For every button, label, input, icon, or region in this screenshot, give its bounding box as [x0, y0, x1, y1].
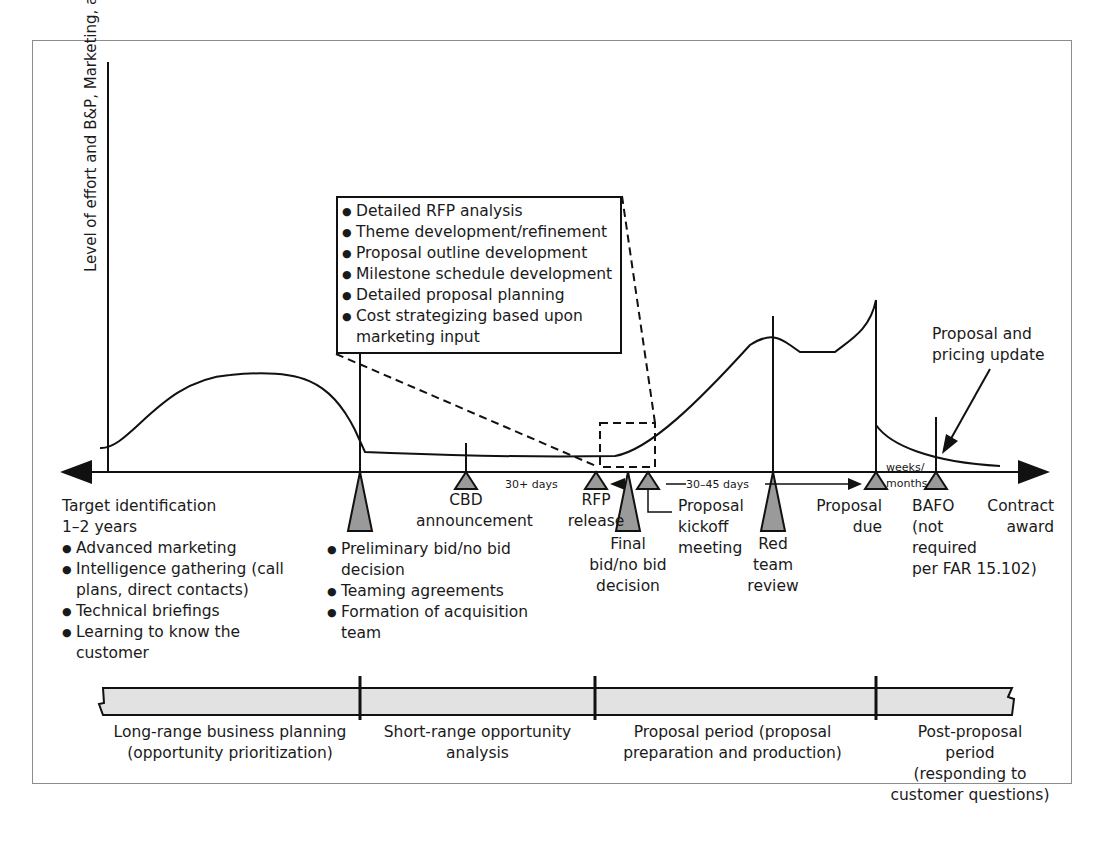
target-duration: 1–2 years	[62, 517, 322, 538]
rfp-marker-icon	[585, 472, 607, 489]
target-item: Technical briefings	[62, 601, 322, 622]
proposal-due-marker-icon	[865, 472, 887, 489]
callout-item: Detailed proposal planning	[342, 285, 616, 306]
callout-item: Theme development/refinement	[342, 222, 616, 243]
interval-30-plus: 30+ days	[505, 478, 558, 491]
period-post-proposal: Post-proposal period (responding to cust…	[880, 722, 1060, 806]
callout-leader-right	[622, 196, 655, 423]
period-line: Post-proposal	[880, 722, 1060, 743]
cbd-line2: announcement	[416, 511, 516, 532]
detail-zoom-box	[600, 423, 655, 467]
y-axis-label: Level of effort and B&P, Marketing, and …	[82, 0, 100, 272]
target-identification-label: Target identification 1–2 years Advanced…	[62, 496, 322, 664]
callout-item: Proposal outline development	[342, 243, 616, 264]
callout-item: Cost strategizing based upon marketing i…	[342, 306, 616, 348]
red-team-line3: review	[743, 576, 803, 597]
period-proposal: Proposal period (proposal preparation an…	[600, 722, 865, 764]
callout-item: Milestone schedule development	[342, 264, 616, 285]
final-bid-line2: bid/no bid	[588, 555, 668, 576]
kickoff-line1: Proposal	[678, 496, 744, 517]
proposal-due-label: Proposal due	[800, 496, 882, 538]
period-line: Short-range opportunity	[365, 722, 590, 743]
final-bid-line1: Final	[588, 534, 668, 555]
pricing-update-line1: Proposal and	[932, 324, 1045, 345]
preliminary-item: Preliminary bid/no bid decision	[327, 539, 531, 581]
period-line: Proposal period (proposal	[600, 722, 865, 743]
kickoff-leader	[648, 490, 672, 512]
red-team-line2: team	[743, 555, 803, 576]
axis-right-arrow-icon	[1018, 460, 1050, 484]
callout-item: Detailed RFP analysis	[342, 201, 616, 222]
interval-arrow-right-icon	[848, 478, 862, 490]
final-bid-label: Final bid/no bid decision	[588, 534, 668, 597]
preliminary-item: Teaming agreements	[327, 581, 547, 602]
rfp-label: RFP release	[566, 490, 626, 532]
update-arrow-head-icon	[942, 434, 958, 454]
red-team-line1: Red	[743, 534, 803, 555]
period-line: (opportunity prioritization)	[100, 743, 360, 764]
period-line: preparation and production)	[600, 743, 865, 764]
interval-30-45: 30–45 days	[686, 478, 749, 491]
interval-weeks: weeks/	[886, 461, 924, 474]
preliminary-marker-icon	[348, 472, 372, 531]
kickoff-line2: kickoff	[678, 517, 744, 538]
proposal-due-line2: due	[800, 517, 882, 538]
red-team-marker-icon	[761, 472, 785, 531]
cbd-label: CBD announcement	[416, 490, 516, 532]
kickoff-marker-icon	[637, 472, 659, 489]
rfp-line1: RFP	[566, 490, 626, 511]
interval-months: months	[886, 477, 927, 490]
contract-award-line1: Contract	[978, 496, 1054, 517]
kickoff-label: Proposal kickoff meeting	[678, 496, 744, 559]
target-item: Advanced marketing	[62, 538, 322, 559]
final-bid-line3: decision	[588, 576, 668, 597]
bafo-line3: required	[912, 538, 1037, 559]
red-team-label: Red team review	[743, 534, 803, 597]
period-line: customer questions)	[880, 785, 1060, 806]
pricing-update-line2: pricing update	[932, 345, 1045, 366]
target-item: Intelligence gathering (call plans, dire…	[62, 559, 322, 601]
contract-award-label: Contract award	[978, 496, 1054, 538]
cbd-line1: CBD	[416, 490, 516, 511]
period-long-range: Long-range business planning (opportunit…	[100, 722, 360, 764]
cbd-marker-icon	[455, 472, 477, 489]
period-line: analysis	[365, 743, 590, 764]
period-line: (responding to	[880, 764, 1060, 785]
period-line: period	[880, 743, 1060, 764]
target-title: Target identification	[62, 496, 322, 517]
contract-award-line2: award	[978, 517, 1054, 538]
proposal-due-line1: Proposal	[800, 496, 882, 517]
preliminary-label: Preliminary bid/no bid decision Teaming …	[327, 539, 547, 644]
interval-arrow-icon	[610, 478, 625, 490]
preliminary-item: Formation of acquisition team	[327, 602, 551, 644]
target-item: Learning to know the customer	[62, 622, 276, 664]
post-proposal-curve	[876, 425, 1000, 466]
detail-callout: Detailed RFP analysis Theme development/…	[336, 196, 622, 354]
pricing-update-label: Proposal and pricing update	[932, 324, 1045, 366]
bafo-marker-icon	[925, 472, 947, 489]
period-line: Long-range business planning	[100, 722, 360, 743]
axis-left-arrow-icon	[60, 460, 92, 484]
kickoff-line3: meeting	[678, 538, 744, 559]
rfp-line2: release	[566, 511, 626, 532]
period-short-range: Short-range opportunity analysis	[365, 722, 590, 764]
bafo-line4: per FAR 15.102)	[912, 559, 1037, 580]
update-arrow-line	[948, 369, 990, 444]
